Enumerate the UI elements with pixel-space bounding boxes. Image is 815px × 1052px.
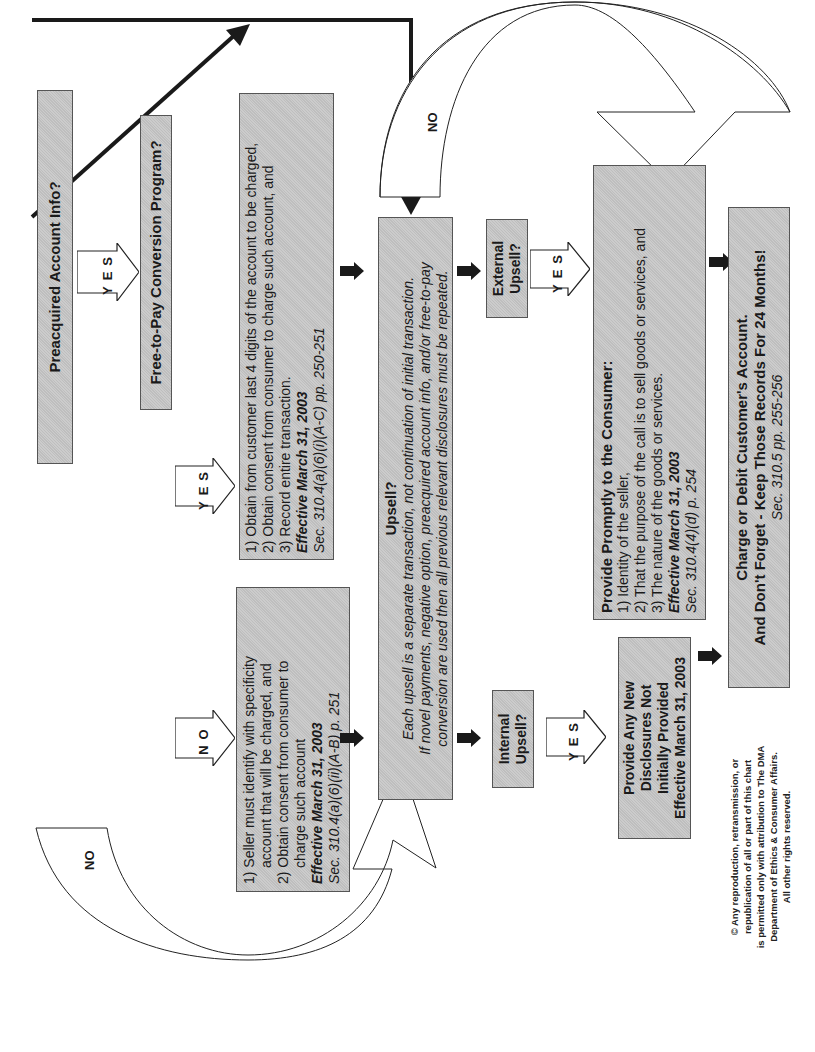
- node-label: External: [490, 241, 507, 296]
- node-ftp-yes-requirements: 1) Obtain from customer last 4 digits of…: [239, 93, 334, 560]
- copyright-line: republication of all or part of this cha…: [741, 742, 754, 952]
- copyright-line: © Any reproduction, retransmission, or: [728, 742, 741, 952]
- effective-date: Effective March 31, 2003: [294, 100, 311, 553]
- charge-line: And Don't Forget - Keep Those Records Fo…: [751, 249, 769, 645]
- citation: Sec. 310.5 pp. 255-256: [769, 375, 786, 521]
- node-external-disclosures: Provide Promptly to the Consumer: 1) Ide…: [593, 165, 706, 620]
- disclosure-line: Effective March 31, 2003: [672, 657, 689, 819]
- no-curve-arrow-upsell-to-charge: [380, 2, 790, 197]
- disclosure-line: Initially Provided: [655, 682, 672, 794]
- node-label: Preacquired Account Info?: [46, 181, 64, 372]
- requirement-line: account that will be charged, and: [258, 595, 275, 884]
- yes-label: YES: [83, 251, 131, 295]
- filled-arrow: [340, 262, 364, 280]
- requirement-line: 2) Obtain consent from consumer to: [275, 595, 292, 884]
- node-upsell: Upsell? Each upsell is a separate transa…: [378, 217, 453, 800]
- node-title: Provide Promptly to the Consumer:: [598, 172, 615, 613]
- requirement-line: 3) Record entire transaction.: [277, 100, 294, 553]
- filled-arrow: [457, 262, 481, 280]
- node-charge-account: Charge or Debit Customer's Account. And …: [728, 207, 790, 688]
- citation: Sec. 310.4(a)(6)(i)(A-C) pp. 250-251: [311, 100, 328, 553]
- requirement-line: 2) Obtain consent from consumer to charg…: [260, 100, 277, 553]
- copyright-notice: © Any reproduction, retransmission, or r…: [728, 742, 793, 952]
- no-curve-label: NO: [82, 851, 97, 871]
- node-ftp-no-requirements: 1) Seller must identify with specificity…: [236, 587, 350, 892]
- disclosure-line: 1) Identity of the seller,: [615, 172, 632, 613]
- disclosure-line: 3) The nature of the goods or services.: [649, 172, 666, 613]
- charge-line: Charge or Debit Customer's Account.: [733, 314, 751, 580]
- copyright-line: Department of Ethics & Consumer Affairs.: [767, 742, 780, 952]
- upsell-note: If novel payments, negative option, prea…: [417, 218, 434, 799]
- filled-arrow: [457, 729, 481, 747]
- filled-arrow: [698, 647, 722, 665]
- requirement-line: 1) Seller must identify with specificity: [241, 595, 258, 884]
- node-external-upsell: External Upsell?: [486, 219, 528, 318]
- effective-date: Effective March 31, 2003: [666, 172, 683, 613]
- yes-label: YES: [535, 250, 579, 292]
- copyright-line: is permitted only with attribution to Th…: [754, 742, 767, 952]
- citation: Sec. 310.4(4)(d) p. 254: [683, 172, 700, 613]
- yes-label: YES: [180, 466, 226, 510]
- diagonal-arrowhead: [226, 24, 250, 46]
- node-label: Free-to-Pay Conversion Program?: [147, 140, 165, 384]
- filled-arrow: [340, 729, 364, 747]
- no-label: NO: [180, 718, 226, 760]
- node-internal-upsell: Internal Upsell?: [492, 690, 534, 788]
- node-preacquired-account: Preacquired Account Info?: [37, 90, 73, 464]
- copyright-line: All other rights reserved.: [780, 742, 793, 952]
- node-label: Internal: [496, 714, 513, 765]
- disclosure-line: Disclosures Not: [638, 685, 655, 792]
- requirement-line: charge such account: [292, 595, 309, 884]
- node-label: Upsell?: [507, 243, 524, 294]
- disclosure-line: Provide Any New: [621, 681, 638, 795]
- upsell-note: Each upsell is a separate transaction, n…: [400, 218, 417, 799]
- return-arrowhead: [400, 195, 422, 215]
- node-title: Upsell?: [382, 218, 400, 799]
- effective-date: Effective March 31, 2003: [309, 595, 326, 884]
- yes-label: YES: [551, 718, 595, 760]
- no-curve-label: NO: [425, 113, 440, 133]
- disclosure-line: 2) That the purpose of the call is to se…: [632, 172, 649, 613]
- node-internal-disclosures: Provide Any New Disclosures Not Initiall…: [618, 637, 691, 839]
- upsell-note: conversion are used then all previous re…: [434, 218, 451, 799]
- node-free-to-pay: Free-to-Pay Conversion Program?: [140, 115, 172, 410]
- node-label: Upsell?: [513, 714, 530, 765]
- requirement-line: 1) Obtain from customer last 4 digits of…: [243, 100, 260, 553]
